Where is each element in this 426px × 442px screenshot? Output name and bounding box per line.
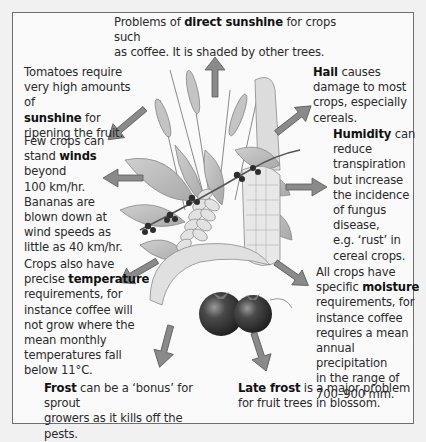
keyword-temperature: temperature (68, 272, 149, 286)
annotation-temperature: Crops also have precise temperature requ… (24, 257, 154, 379)
annotation-winds: Few crops can stand winds beyond 100 km/… (24, 134, 134, 256)
arrow-up-right-icon (271, 99, 317, 140)
arrow-down-right-icon (270, 255, 313, 293)
annotation-sunshine: Tomatoes require very high amounts of su… (24, 65, 144, 141)
keyword-frost: Frost (44, 381, 77, 395)
annotation-direct-sunshine: Problems of direct sunshine for crops su… (114, 15, 344, 61)
arrow-down-late-frost-icon (244, 330, 275, 374)
annotation-humidity: Humidity can reduce transpiration but in… (333, 127, 418, 264)
annotation-hail: Hail causes damage to most crops, especi… (313, 65, 413, 126)
keyword-direct-sunshine: direct sunshine (184, 15, 283, 29)
tomatoes (199, 292, 292, 336)
keyword-late-frost: Late frost (238, 381, 300, 395)
seed-heads (152, 69, 250, 138)
keyword-moisture: moisture (362, 280, 419, 294)
arrow-right-icon (286, 178, 327, 196)
keyword-humidity: Humidity (333, 127, 391, 141)
keyword-hail: Hail (313, 65, 338, 79)
keyword-sunshine: sunshine (24, 111, 81, 125)
annotation-frost: Frost can be a ‘bonus’ for sprout grower… (44, 381, 219, 442)
arrow-down-frost-icon (150, 323, 180, 370)
annotation-late-frost: Late frost is a major problem for fruit … (238, 381, 413, 411)
arrow-up-icon (205, 57, 225, 97)
keyword-winds: winds (59, 149, 96, 163)
